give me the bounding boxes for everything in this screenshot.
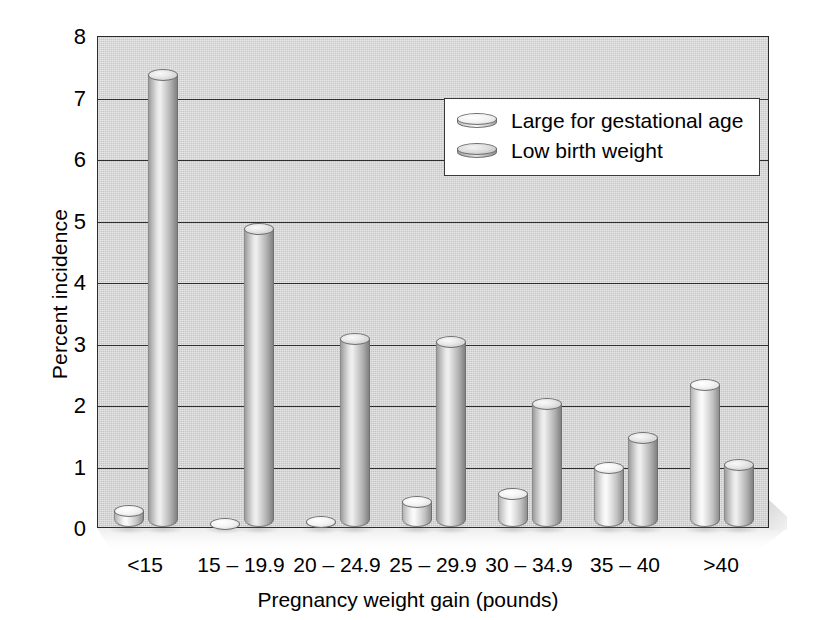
x-axis-tick-label: 25 – 29.9: [389, 553, 477, 577]
bar: [148, 69, 178, 527]
x-axis-tick-label: 15 – 19.9: [197, 553, 285, 577]
legend-swatch-cylinder-icon: [457, 143, 497, 160]
bar-group: [306, 37, 370, 527]
bar: [498, 488, 528, 527]
bar: [210, 518, 240, 527]
chart-floor-edge: [769, 500, 787, 530]
y-axis-tick-label: 4: [74, 270, 86, 296]
y-axis-tick-label: 8: [74, 24, 86, 50]
x-axis-tick-label: 30 – 34.9: [485, 553, 573, 577]
bar: [436, 336, 466, 527]
bar-group: [210, 37, 274, 527]
y-axis-tick-label: 0: [74, 516, 86, 542]
y-axis-tick-label: 2: [74, 393, 86, 419]
legend-item-low-birth-weight: Low birth weight: [457, 136, 743, 166]
y-axis-tick-label: 7: [74, 86, 86, 112]
bar: [594, 462, 624, 527]
chart-legend: Large for gestational age Low birth weig…: [444, 98, 760, 176]
y-axis-tick-label: 3: [74, 332, 86, 358]
bar: [244, 223, 274, 527]
bar: [402, 496, 432, 527]
bar: [628, 432, 658, 527]
legend-item-large-for-gestational-age: Large for gestational age: [457, 106, 743, 136]
bar: [340, 333, 370, 527]
legend-swatch-cylinder-icon: [457, 113, 497, 130]
y-axis-tick-label: 6: [74, 147, 86, 173]
x-axis-title: Pregnancy weight gain (pounds): [0, 588, 816, 612]
legend-label: Low birth weight: [511, 139, 663, 163]
bar: [114, 505, 144, 527]
y-axis-tick-label: 1: [74, 455, 86, 481]
chart-figure: Percent incidence 012345678 <1515 – 19.9…: [0, 0, 816, 620]
y-axis-title: Percent incidence: [48, 54, 72, 534]
legend-label: Large for gestational age: [511, 109, 743, 133]
bar: [690, 379, 720, 527]
bar-group: [114, 37, 178, 527]
x-axis-tick-label: 35 – 40: [590, 553, 660, 577]
y-axis-tick-label: 5: [74, 209, 86, 235]
chart-floor: [97, 528, 787, 550]
bar: [306, 516, 336, 527]
bar: [724, 459, 754, 527]
x-axis-tick-label: 20 – 24.9: [293, 553, 381, 577]
x-axis-tick-label: <15: [127, 553, 163, 577]
bar: [532, 398, 562, 527]
x-axis-tick-label: >40: [703, 553, 739, 577]
